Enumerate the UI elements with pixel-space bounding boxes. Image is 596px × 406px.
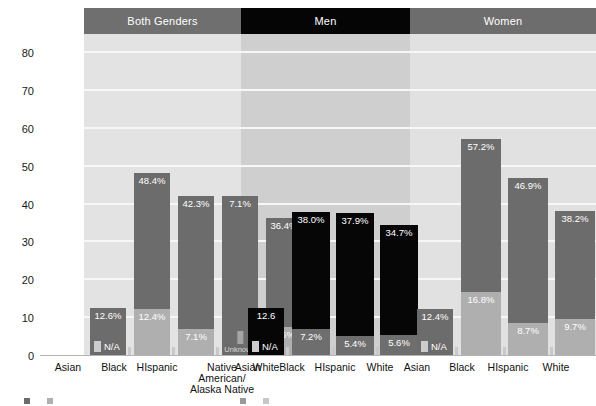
bar-segment-lower: 16.8% xyxy=(461,292,501,356)
bar-women-white[interactable]: 9.7% 38.2% xyxy=(555,211,595,356)
bar-women-hispanic[interactable]: 8.7% 46.9% xyxy=(508,178,548,356)
na-swatch-icon xyxy=(94,341,101,352)
bar-value-label-lower: 5.6% xyxy=(380,337,418,348)
na-marker: N/A xyxy=(94,341,120,352)
bar-value-label-upper: 34.7% xyxy=(380,227,418,238)
gridline-80 xyxy=(84,51,596,53)
na-marker: N/A xyxy=(252,341,278,352)
y-tick-80: 80 xyxy=(0,47,34,59)
x-axis-baseline xyxy=(40,355,596,356)
bar-segment-upper: 42.3% xyxy=(178,196,214,329)
bar-segment-lower: 9.7% xyxy=(555,319,595,356)
bar-value-label-lower: 9.7% xyxy=(555,321,595,332)
plot-area: 0 10 20 30 40 50 60 70 80 12.6% N/A 12.4… xyxy=(40,34,596,356)
legend-swatch-icon xyxy=(47,398,53,404)
group-banner-men-label: Men xyxy=(315,15,337,27)
bar-value-label-upper: 12.6% xyxy=(90,310,126,321)
bar-value-label-lower: 7.1% xyxy=(178,331,214,342)
stacked-bar-chart: Both Genders Men Women 0 10 20 30 40 50 … xyxy=(0,0,596,406)
bar-value-label-upper: 46.9% xyxy=(508,180,548,191)
x-label-women-white: White xyxy=(516,362,596,373)
bar-segment-upper: 57.2% xyxy=(461,139,501,292)
gridline-60 xyxy=(84,127,596,129)
bar-men-asian[interactable]: 12.6 N/A xyxy=(248,308,284,356)
legend-swatch-icon xyxy=(263,398,269,404)
bar-value-label-lower: 5.4% xyxy=(336,338,374,349)
gridline-70 xyxy=(84,89,596,91)
bar-segment-upper: 46.9% xyxy=(508,178,548,323)
bar-segment-lower: 5.4% xyxy=(336,336,374,357)
na-swatch-icon xyxy=(421,341,428,352)
bar-segment-upper: 38.0% xyxy=(292,212,330,329)
na-label: N/A xyxy=(431,341,447,352)
na-label: N/A xyxy=(262,341,278,352)
legend-item-2[interactable] xyxy=(47,398,56,404)
bar-value-label-upper: 48.4% xyxy=(134,175,170,186)
group-banner-women: Women xyxy=(410,8,596,34)
bar-value-label-upper: 42.3% xyxy=(178,198,214,209)
bar-women-black[interactable]: 16.8% 57.2% xyxy=(461,139,501,356)
x-label-both-native-american-line3: Alaska Native xyxy=(171,384,273,395)
bar-both-asian[interactable]: 12.6% N/A xyxy=(90,308,126,356)
y-tick-30: 30 xyxy=(0,236,34,248)
bar-men-white[interactable]: 5.6% 34.7% xyxy=(380,225,418,356)
group-banner-both-genders: Both Genders xyxy=(84,8,241,34)
bar-value-label-lower: 7.2% xyxy=(292,331,330,342)
y-tick-60: 60 xyxy=(0,123,34,135)
y-tick-70: 70 xyxy=(0,85,34,97)
bar-both-hispanic[interactable]: 7.1% 42.3% xyxy=(178,196,214,356)
legend-item-4[interactable] xyxy=(263,398,272,404)
legend-swatch-icon xyxy=(240,398,246,404)
legend-swatch-icon xyxy=(24,398,30,404)
bar-value-label-upper: 38.2% xyxy=(555,213,595,224)
bar-men-hispanic[interactable]: 5.4% 37.9% xyxy=(336,213,374,357)
unknown-swatch-icon xyxy=(237,331,243,344)
bar-value-label-upper: 12.4% xyxy=(417,311,453,322)
legend-item-1[interactable] xyxy=(24,398,33,404)
bar-value-label-lower: 12.4% xyxy=(134,311,170,322)
y-tick-50: 50 xyxy=(0,161,34,173)
bar-segment-upper: 48.4% xyxy=(134,173,170,309)
y-tick-20: 20 xyxy=(0,274,34,286)
y-tick-0: 0 xyxy=(0,350,34,362)
group-banner-men: Men xyxy=(241,8,410,34)
na-marker: N/A xyxy=(421,341,447,352)
bar-value-label-upper: 57.2% xyxy=(461,141,501,152)
bar-women-asian[interactable]: 12.4% N/A xyxy=(417,309,453,356)
bar-value-label-upper: 37.9% xyxy=(336,215,374,226)
bar-segment-upper: 37.9% xyxy=(336,213,374,336)
bar-segment-lower: 7.2% xyxy=(292,329,330,356)
bar-men-black[interactable]: 7.2% 38.0% xyxy=(292,212,330,356)
bar-both-black[interactable]: 12.4% 48.4% xyxy=(134,173,170,356)
bar-value-label-upper: 7.1% xyxy=(222,198,258,209)
bar-segment-lower: 12.4% xyxy=(134,309,170,356)
na-label: N/A xyxy=(104,341,120,352)
group-banner-both-genders-label: Both Genders xyxy=(127,15,197,27)
y-tick-40: 40 xyxy=(0,199,34,211)
bar-segment-lower: 8.7% xyxy=(508,323,548,356)
bar-value-label-upper: 12.6 xyxy=(248,310,284,321)
chart-legend xyxy=(24,398,272,406)
bar-segment-lower: 5.6% xyxy=(380,335,418,356)
bar-segment-lower: 7.1% xyxy=(178,329,214,356)
bar-value-label-upper: 38.0% xyxy=(292,214,330,225)
bar-segment-upper: 38.2% xyxy=(555,211,595,319)
na-swatch-icon xyxy=(252,341,259,352)
gridline-50 xyxy=(84,165,596,167)
y-tick-10: 10 xyxy=(0,312,34,324)
bar-value-label-lower: 16.8% xyxy=(461,294,501,305)
group-banner-women-label: Women xyxy=(484,15,523,27)
legend-item-3[interactable] xyxy=(240,398,249,404)
bar-segment-upper: 34.7% xyxy=(380,225,418,335)
bar-value-label-lower: 8.7% xyxy=(508,325,548,336)
